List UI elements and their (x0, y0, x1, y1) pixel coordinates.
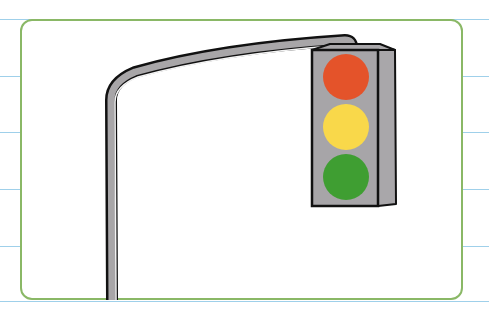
yellow-light-icon (323, 104, 369, 150)
red-light-icon (323, 54, 369, 100)
green-light-icon (323, 154, 369, 200)
traffic-light-illustration (0, 0, 489, 315)
housing-side (378, 46, 396, 206)
